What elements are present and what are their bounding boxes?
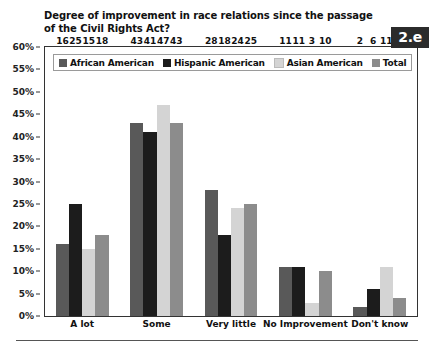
bar-column: 43 [170,47,183,316]
bar-value-label: 28 [205,36,218,46]
x-axis-tick-label: No Improvement [263,319,348,329]
x-axis-tick-label: Very little [206,319,256,329]
bar-group: 16251518 [56,47,109,316]
bar-value-label: 11 [279,36,292,46]
bar-column: 25 [244,47,257,316]
y-axis-tick-label: 20% [12,221,34,231]
bar-value-label: 43 [170,36,183,46]
bar: 43 [130,123,143,316]
bar: 25 [69,204,82,316]
bar-value-label: 25 [69,36,82,46]
y-axis-tick-mark [36,271,40,272]
bar: 11 [279,267,292,316]
legend-label: Total [383,58,407,68]
bar-value-label: 43 [131,36,144,46]
bar-column: 25 [69,47,82,316]
footer-divider [16,340,418,341]
bar: 18 [95,235,108,316]
bar-column: 11 [380,47,393,316]
bar-column: 11 [279,47,292,316]
legend-label: Hispanic American [174,58,265,68]
y-axis-tick-label: 0% [19,311,34,321]
bar: 15 [82,249,95,316]
y-axis-tick-label: 50% [12,87,34,97]
y-axis-tick-mark [36,136,40,137]
y-axis-tick-label: 25% [12,199,34,209]
legend-item: Total [372,58,407,68]
bar-column: 6 [367,47,380,316]
y-axis-tick-label: 60% [12,42,34,52]
y-axis-tick-mark [36,181,40,182]
y-axis-tick-mark [36,159,40,160]
bar-column: 18 [218,47,231,316]
y-axis: 0%5%10%15%20%25%30%35%40%45%50%55%60% [0,46,40,317]
bar-column: 41 [143,47,156,316]
bar-value-label: 11 [293,36,306,46]
bar: 6 [367,289,380,316]
bar: 41 [143,132,156,316]
bar: 4 [393,298,406,316]
legend-swatch-total [372,59,380,67]
bar: 2 [353,307,366,316]
bar: 28 [205,190,218,316]
y-axis-tick-mark [36,316,40,317]
y-axis-tick-label: 5% [19,289,34,299]
bar: 25 [244,204,257,316]
bar-column: 28 [205,47,218,316]
legend-item: Asian American [274,58,363,68]
bar: 43 [170,123,183,316]
y-axis-tick-mark [36,248,40,249]
bar-column: 11 [292,47,305,316]
bar-group: 28182425 [205,47,258,316]
legend-swatch-african-american [59,59,67,67]
y-axis-tick-mark [36,114,40,115]
bar-value-label: 18 [96,36,109,46]
bar-value-label: 41 [144,36,157,46]
legend-label: Asian American [287,58,363,68]
bar-column: 47 [157,47,170,316]
bar-group: 26114 [353,47,406,316]
bar-column: 2 [353,47,366,316]
x-axis-tick-label: Don't know [351,319,408,329]
question-number-badge: 2.e [391,27,429,48]
bar: 18 [218,235,231,316]
bar: 10 [319,271,332,316]
bar: 3 [305,303,318,316]
bar-value-label: 18 [218,36,231,46]
legend-swatch-asian-american [274,58,284,68]
chart-figure: Degree of improvement in race relations … [0,0,434,358]
y-axis-tick-label: 15% [12,244,34,254]
bar-value-label: 47 [157,36,170,46]
bar: 11 [380,267,393,316]
y-axis-tick-mark [36,69,40,70]
bar-value-label: 10 [319,36,332,46]
x-axis-tick-label: A lot [70,319,94,329]
y-axis-tick-mark [36,226,40,227]
legend-item: Hispanic American [163,58,265,68]
x-axis-tick-label: Some [143,319,171,329]
y-axis-tick-label: 35% [12,154,34,164]
legend-swatch-hispanic-american [163,59,171,67]
y-axis-tick-label: 10% [12,266,34,276]
y-axis-tick-mark [36,91,40,92]
y-axis-tick-label: 40% [12,132,34,142]
bar-value-label: 6 [370,36,376,46]
plot-area: 162515184341474328182425111131026114 [45,47,417,316]
chart-title: Degree of improvement in race relations … [44,9,374,35]
bar-value-label: 25 [245,36,258,46]
y-axis-tick-label: 55% [12,64,34,74]
bar: 47 [157,105,170,316]
y-axis-tick-label: 30% [12,177,34,187]
bar-column: 15 [82,47,95,316]
bar-column: 4 [393,47,406,316]
bar-group: 43414743 [130,47,183,316]
bar-column: 16 [56,47,69,316]
bar-column: 43 [130,47,143,316]
bar-group: 1111310 [279,47,332,316]
bar: 16 [56,244,69,316]
legend-label: African American [70,58,154,68]
legend-item: African American [59,58,154,68]
bar-value-label: 15 [83,36,96,46]
bar-column: 24 [231,47,244,316]
bar: 11 [292,267,305,316]
